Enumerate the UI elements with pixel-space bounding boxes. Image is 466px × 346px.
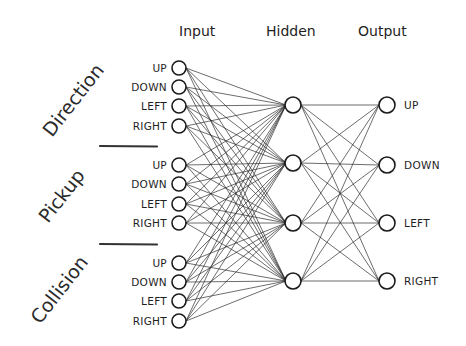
output-node-label: LEFT — [404, 217, 430, 229]
input-node-label: RIGHT — [133, 120, 168, 132]
output-layer-title: Output — [358, 23, 407, 39]
input-node-collision-left — [172, 294, 186, 308]
edge-input-hidden — [186, 126, 286, 223]
input-node-pickup-down — [172, 177, 186, 191]
edge-input-hidden — [186, 87, 286, 105]
input-node-direction-left — [172, 99, 186, 113]
input-node-collision-down — [172, 275, 186, 289]
input-node-label: RIGHT — [133, 217, 168, 229]
input-node-collision-right — [172, 314, 186, 328]
output-node-label: UP — [404, 99, 419, 111]
input-node-label: UP — [152, 159, 167, 171]
edge-input-hidden — [186, 105, 286, 321]
group-divider — [100, 146, 157, 147]
output-node-label: RIGHT — [404, 275, 439, 287]
input-node-label: DOWN — [131, 81, 167, 93]
output-node-up — [379, 97, 395, 113]
edge-input-hidden — [186, 163, 286, 321]
output-node-down — [379, 157, 395, 173]
output-node-left — [379, 215, 395, 231]
edge-input-hidden — [186, 87, 286, 163]
neural-network-diagram: Input Hidden Output Direction Pickup Col… — [0, 0, 466, 346]
group-label-collision: Collision — [26, 251, 92, 327]
edge-input-hidden — [186, 68, 286, 223]
output-node-labels: UPDOWNLEFTRIGHT — [404, 99, 440, 287]
group-dividers — [100, 146, 157, 245]
input-node-label: LEFT — [141, 198, 167, 210]
input-node-label: RIGHT — [133, 315, 168, 327]
input-node-pickup-up — [172, 158, 186, 172]
hidden-node-4 — [285, 273, 301, 289]
input-node-collision-up — [172, 256, 186, 270]
connections — [186, 68, 379, 321]
edge-input-hidden — [186, 105, 286, 106]
input-node-direction-up — [172, 61, 186, 75]
group-label-direction: Direction — [38, 59, 108, 140]
hidden-node-3 — [285, 215, 301, 231]
edge-input-hidden — [186, 281, 286, 321]
nodes — [172, 61, 395, 328]
input-node-label: DOWN — [131, 178, 167, 190]
input-layer-title: Input — [179, 23, 216, 39]
input-node-label: UP — [152, 257, 167, 269]
hidden-layer-title: Hidden — [266, 23, 316, 39]
edge-input-hidden — [186, 281, 286, 282]
input-node-pickup-right — [172, 216, 186, 230]
input-node-pickup-left — [172, 197, 186, 211]
input-node-label: UP — [152, 62, 167, 74]
hidden-node-1 — [285, 97, 301, 113]
input-node-label: LEFT — [141, 100, 167, 112]
input-node-direction-down — [172, 80, 186, 94]
group-divider — [100, 244, 157, 245]
output-node-label: DOWN — [404, 159, 440, 171]
input-node-label: DOWN — [131, 276, 167, 288]
hidden-node-2 — [285, 155, 301, 171]
group-label-pickup: Pickup — [34, 165, 89, 227]
input-node-labels: UPDOWNLEFTRIGHTUPDOWNLEFTRIGHTUPDOWNLEFT… — [131, 62, 167, 327]
output-node-right — [379, 273, 395, 289]
input-node-direction-right — [172, 119, 186, 133]
edge-input-hidden — [186, 223, 286, 263]
input-node-label: LEFT — [141, 295, 167, 307]
